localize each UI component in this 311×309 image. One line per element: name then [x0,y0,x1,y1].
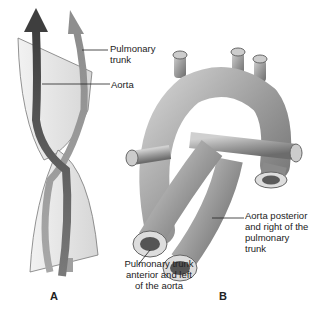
label-line: Pulmonary trunk [120,258,198,269]
label-line: Pulmonary [110,43,155,54]
panel-label-a: A [50,290,58,302]
label-pulmonary-anterior: Pulmonary trunk anterior and left of the… [120,258,198,291]
label-line: trunk [110,54,155,65]
aorta-arrowhead [24,8,48,32]
panel-label-b: B [219,290,227,302]
label-line: Aorta posterior [245,210,311,221]
pulmonary-trunk-arrowhead [68,10,84,34]
label-line: anterior and left [120,269,198,280]
label-aorta-posterior: Aorta posterior and right of the pulmona… [245,210,311,254]
label-line: and right of the [245,221,311,232]
panel-a-illustration [18,8,110,276]
label-line: pulmonary trunk [245,232,311,254]
label-aorta: Aorta [111,79,134,90]
label-line: of the aorta [120,280,198,291]
label-pulmonary-trunk: Pulmonary trunk [110,43,155,65]
